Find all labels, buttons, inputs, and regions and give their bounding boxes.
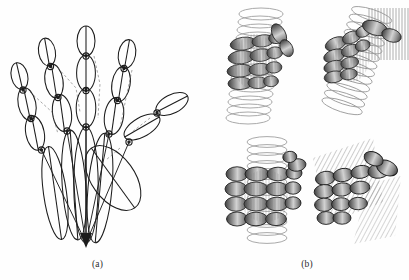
grasp-subfigure-bottom-left <box>225 137 307 244</box>
construction-strokes <box>30 56 150 160</box>
grasp-subfigure-top-right <box>320 3 409 118</box>
palm-1 <box>233 34 277 90</box>
hand-fingers-1 <box>227 21 297 90</box>
hand-wireframe-drawing <box>0 0 205 255</box>
grasp-configurations-drawing <box>205 0 409 255</box>
finger-row-3b <box>314 197 367 212</box>
palm-convergence-lines <box>42 127 130 243</box>
panel-b-grasp-renders: (b) <box>205 0 409 280</box>
figure-root: (a) <box>0 0 409 280</box>
grasp-subfigure-bottom-right <box>313 138 401 244</box>
panel-a-hand-model: (a) <box>0 0 205 280</box>
grasp-subfigure-top-left <box>226 8 296 124</box>
caption-panel-a: (a) <box>0 259 200 269</box>
caption-panel-b: (b) <box>205 259 409 269</box>
digit-thumb <box>74 88 192 221</box>
